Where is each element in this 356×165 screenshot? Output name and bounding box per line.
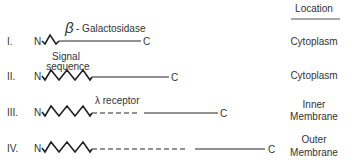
row-1-signal-zigzag (42, 35, 59, 44)
row-2-numeral: II. (7, 71, 15, 82)
row-1-location: Cytoplasm (290, 36, 337, 47)
row-3-numeral: III. (7, 107, 18, 118)
protein-constructs-diagram: Location I. N C β - Galactosidase Cytopl… (0, 0, 356, 165)
row-2-c-terminus: C (171, 72, 178, 83)
row-3-c-terminus: C (220, 108, 227, 119)
row-2: Signal sequence II. N C Cytoplasm (7, 51, 338, 83)
beta-symbol: β (64, 19, 74, 36)
row-3-location-line2: Membrane (290, 111, 338, 122)
row-1-n-terminus: N (34, 36, 41, 47)
row-4-numeral: IV. (7, 143, 18, 154)
row-1: I. N C β - Galactosidase Cytoplasm (7, 19, 338, 47)
row-3: λ receptor III. N C Inner Membrane (7, 95, 338, 122)
row-1-c-terminus: C (143, 36, 150, 47)
location-header: Location (295, 3, 333, 14)
lambda-receptor-label: λ receptor (95, 95, 140, 106)
row-4-signal-zigzag (42, 142, 92, 152)
row-2-location: Cytoplasm (290, 70, 337, 81)
row-3-location-line1: Inner (303, 99, 326, 110)
row-4: IV. N C Outer Membrane (7, 134, 338, 158)
galactosidase-label: - Galactosidase (76, 23, 146, 34)
row-4-n-terminus: N (34, 143, 41, 154)
row-4-location-line1: Outer (301, 134, 327, 145)
row-4-c-terminus: C (268, 144, 275, 155)
row-3-signal-zigzag (42, 106, 92, 116)
row-1-numeral: I. (7, 36, 13, 47)
row-2-n-terminus: N (34, 71, 41, 82)
row-4-location-line2: Membrane (290, 147, 338, 158)
row-3-n-terminus: N (34, 107, 41, 118)
